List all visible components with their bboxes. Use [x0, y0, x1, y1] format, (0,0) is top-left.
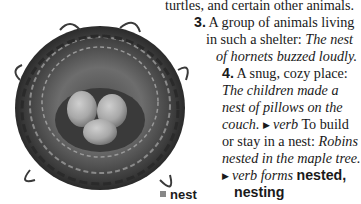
- verb-sense: couch. ▶verb To build: [222, 116, 349, 134]
- verb-forms-label: verb forms: [232, 167, 293, 183]
- example-text: nested in the maple tree.: [222, 150, 361, 166]
- verb-form: nested,: [297, 167, 347, 183]
- egg: [83, 119, 117, 145]
- verb-forms: ▶verb forms nested,: [222, 167, 346, 185]
- sense-definition: A snug, cozy place:: [237, 65, 348, 81]
- part-of-speech: verb: [273, 116, 298, 132]
- example-text: The nest: [305, 31, 353, 47]
- verb-definition: or stay in a nest:: [222, 133, 319, 149]
- nest-photo: [0, 10, 200, 204]
- triangle-marker-icon: ▶: [222, 171, 229, 181]
- example-text: couch.: [222, 116, 259, 132]
- sense-number: 4.: [222, 65, 234, 81]
- verb-definition: To build: [301, 116, 348, 132]
- verb-sense-line2: or stay in a nest: Robins: [222, 133, 358, 149]
- example-text: Robins: [319, 133, 358, 149]
- sense-3: 3. A group of animals living: [194, 14, 354, 30]
- sense-definition: in such a shelter:: [206, 31, 305, 47]
- image-caption: nest: [160, 188, 197, 202]
- example-text: The children made a: [222, 82, 339, 98]
- sense-4: 4. A snug, cozy place:: [222, 65, 348, 81]
- definition-continuation: turtles, and certain other animals.: [165, 0, 354, 13]
- verb-form: nesting: [234, 184, 284, 200]
- caption-text: nest: [170, 187, 197, 202]
- triangle-marker-icon: ▶: [263, 120, 270, 130]
- example-text: nest of pillows on the: [222, 99, 343, 115]
- sense-definition: A group of animals living: [209, 14, 355, 30]
- example-text: of hornets buzzed loudly.: [216, 48, 357, 64]
- sense-3-line2: in such a shelter: The nest: [206, 31, 353, 47]
- sense-number: 3.: [194, 14, 206, 30]
- square-bullet-icon: [160, 191, 166, 197]
